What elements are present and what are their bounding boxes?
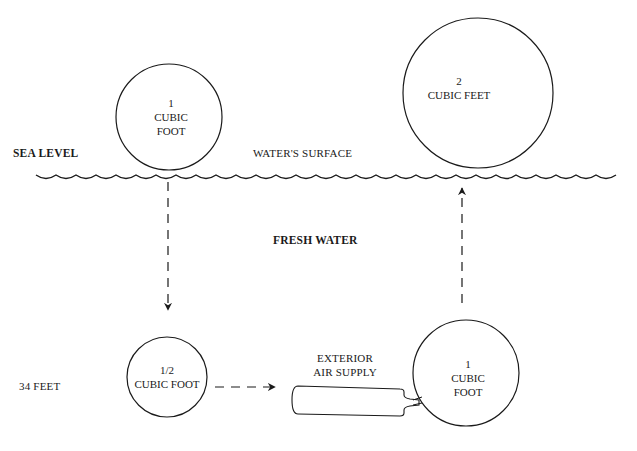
- sea-level-label: SEA LEVEL: [13, 146, 78, 160]
- bubble-unit-line1: CUBIC: [451, 371, 485, 385]
- water-surface-line: [36, 175, 616, 179]
- bubble-unit: CUBIC FOOT: [134, 377, 199, 391]
- bubble-surface-expanded-text: 2 CUBIC FEET: [428, 74, 491, 102]
- bubble-depth-compressed-text: 1/2 CUBIC FOOT: [134, 363, 199, 391]
- air-supply-tank-icon: [292, 386, 419, 416]
- bubble-volume-number: 1/2: [134, 363, 199, 377]
- air-supply-label-line1: EXTERIOR: [317, 351, 373, 365]
- air-supply-label-line2: AIR SUPPLY: [313, 365, 377, 379]
- waters-surface-label: WATER'S SURFACE: [253, 146, 352, 160]
- bubble-unit: CUBIC FEET: [428, 88, 491, 102]
- depth-label: 34 FEET: [19, 379, 60, 393]
- bubble-volume-number: 1: [451, 357, 485, 371]
- diagram-canvas: [0, 0, 637, 451]
- bubble-unit-line2: FOOT: [451, 385, 485, 399]
- bubble-volume-number: 2: [428, 74, 491, 88]
- bubble-depth-refilled-text: 1 CUBIC FOOT: [451, 357, 485, 399]
- bubble-surface-start-text: 1 CUBIC FOOT: [154, 96, 188, 138]
- bubble-volume-number: 1: [154, 96, 188, 110]
- bubble-unit-line1: CUBIC: [154, 110, 188, 124]
- fresh-water-label: FRESH WATER: [273, 233, 358, 247]
- bubble-unit-line2: FOOT: [154, 124, 188, 138]
